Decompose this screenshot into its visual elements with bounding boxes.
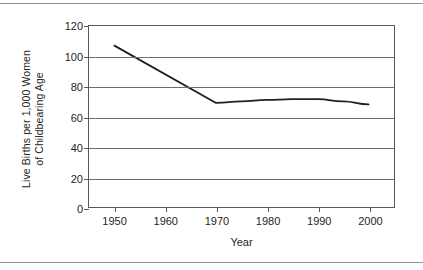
y-tick-mark [84, 118, 89, 119]
x-tick-mark [166, 207, 167, 212]
y-tick-label: 60 [71, 112, 83, 124]
figure-page: Live Births per 1,000 Women of Childbear… [0, 0, 423, 270]
y-tick-mark [84, 209, 89, 210]
y-axis-title: Live Births per 1,000 Women of Childbear… [16, 24, 50, 214]
bottom-divider-rule [0, 262, 423, 263]
y-tick-mark [84, 179, 89, 180]
y-tick-label: 100 [65, 51, 83, 63]
x-tick-mark [268, 207, 269, 212]
x-tick-label: 2000 [358, 215, 382, 227]
y-tick-label: 0 [77, 203, 83, 215]
x-tick-mark [115, 207, 116, 212]
y-gridline [89, 148, 394, 149]
x-tick-mark [217, 207, 218, 212]
x-tick-label: 1950 [102, 215, 126, 227]
y-tick-mark [84, 148, 89, 149]
y-axis-title-line-2: of Childbearing Age [33, 72, 46, 166]
plot-area: 020406080100120195019601970198019902000 [88, 25, 395, 208]
y-tick-label: 40 [71, 142, 83, 154]
y-gridline [89, 179, 394, 180]
data-series-line [89, 26, 394, 207]
y-gridline [89, 87, 394, 88]
x-axis-title: Year [88, 236, 395, 248]
y-gridline [89, 57, 394, 58]
y-axis-title-line-1: Live Births per 1,000 Women [20, 50, 33, 188]
x-tick-label: 1970 [205, 215, 229, 227]
x-tick-label: 1980 [256, 215, 280, 227]
x-tick-mark [319, 207, 320, 212]
series-path [114, 46, 368, 105]
x-tick-label: 1990 [307, 215, 331, 227]
line-chart-figure: Live Births per 1,000 Women of Childbear… [0, 4, 423, 262]
y-tick-label: 120 [65, 20, 83, 32]
y-tick-mark [84, 87, 89, 88]
y-gridline [89, 118, 394, 119]
y-tick-mark [84, 26, 89, 27]
y-tick-label: 20 [71, 173, 83, 185]
y-tick-mark [84, 57, 89, 58]
x-tick-label: 1960 [154, 215, 178, 227]
y-tick-label: 80 [71, 81, 83, 93]
x-tick-mark [370, 207, 371, 212]
